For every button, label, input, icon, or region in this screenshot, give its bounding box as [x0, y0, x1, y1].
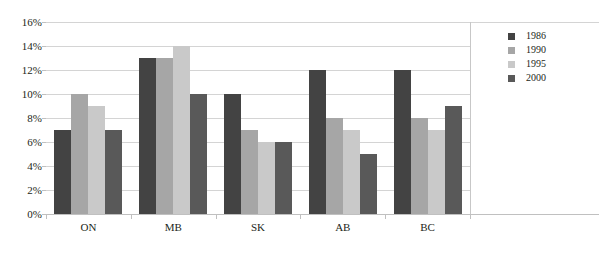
- chart-legend: 1986199019952000: [508, 30, 546, 86]
- y-axis-label: 10%: [4, 89, 42, 100]
- bar-on-1990: [71, 94, 88, 214]
- bar-on-1986: [54, 130, 71, 214]
- bar-chart: 0%2%4%6%8%10%12%14%16% 1986199019952000 …: [0, 0, 605, 254]
- bar-mb-2000: [190, 94, 207, 214]
- legend-item-1986[interactable]: 1986: [508, 30, 546, 42]
- x-axis-tick: [46, 215, 47, 219]
- legend-label: 1990: [526, 45, 546, 55]
- bar-ab-1990: [326, 118, 343, 214]
- bar-mb-1995: [173, 46, 190, 214]
- bar-group-ab: [300, 22, 385, 214]
- y-axis-label: 16%: [4, 17, 42, 28]
- y-axis: 0%2%4%6%8%10%12%14%16%: [0, 0, 42, 254]
- legend-label: 1986: [526, 31, 546, 41]
- x-axis-label-mb: MB: [131, 222, 216, 233]
- legend-label: 2000: [526, 73, 546, 83]
- y-axis-label: 12%: [4, 65, 42, 76]
- plot-right-border: [470, 22, 471, 215]
- bar-group-bc: [385, 22, 470, 214]
- legend-item-1990[interactable]: 1990: [508, 44, 546, 56]
- bar-group-sk: [216, 22, 301, 214]
- y-axis-label: 8%: [4, 113, 42, 124]
- y-axis-label: 4%: [4, 161, 42, 172]
- bar-sk-1990: [241, 130, 258, 214]
- legend-swatch-icon: [508, 61, 515, 68]
- x-axis-label-sk: SK: [216, 222, 301, 233]
- bar-bc-2000: [445, 106, 462, 214]
- bar-group-on: [46, 22, 131, 214]
- bar-ab-1986: [309, 70, 326, 214]
- bar-group-mb: [131, 22, 216, 214]
- bar-sk-1986: [224, 94, 241, 214]
- x-axis-tick: [385, 215, 386, 219]
- legend-swatch-icon: [508, 75, 515, 82]
- x-axis-tick: [300, 215, 301, 219]
- bar-on-2000: [105, 130, 122, 214]
- bar-sk-2000: [275, 142, 292, 214]
- bar-sk-1995: [258, 142, 275, 214]
- legend-swatch-icon: [508, 47, 515, 54]
- legend-item-2000[interactable]: 2000: [508, 72, 546, 84]
- y-axis-label: 14%: [4, 41, 42, 52]
- x-axis-tick: [131, 215, 132, 219]
- y-axis-label: 2%: [4, 185, 42, 196]
- x-axis-label-ab: AB: [300, 222, 385, 233]
- legend-swatch-icon: [508, 33, 515, 40]
- bar-mb-1990: [156, 58, 173, 214]
- y-axis-label: 6%: [4, 137, 42, 148]
- bar-bc-1990: [411, 118, 428, 214]
- legend-label: 1995: [526, 59, 546, 69]
- legend-item-1995[interactable]: 1995: [508, 58, 546, 70]
- plot-area: [46, 22, 470, 214]
- bar-on-1995: [88, 106, 105, 214]
- bar-bc-1995: [428, 130, 445, 214]
- axis-baseline: [46, 214, 599, 215]
- bar-bc-1986: [394, 70, 411, 214]
- y-axis-label: 0%: [4, 209, 42, 220]
- x-axis-label-bc: BC: [385, 222, 470, 233]
- bar-ab-2000: [360, 154, 377, 214]
- x-axis-label-on: ON: [46, 222, 131, 233]
- x-axis-tick: [470, 215, 471, 219]
- x-axis-tick: [216, 215, 217, 219]
- bar-ab-1995: [343, 130, 360, 214]
- bar-mb-1986: [139, 58, 156, 214]
